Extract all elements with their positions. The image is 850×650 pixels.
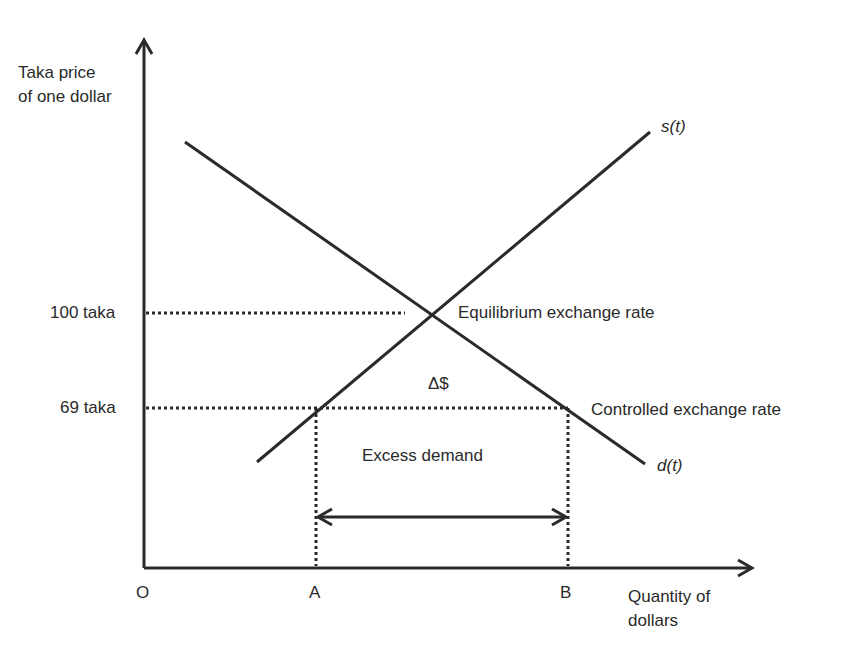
- x-axis-label-line2: dollars: [628, 610, 678, 631]
- supply-demand-diagram: [0, 0, 850, 650]
- controlled-rate-label: Controlled exchange rate: [591, 399, 781, 420]
- delta-dollar-label: Δ$: [428, 373, 449, 394]
- price-label-69: 69 taka: [60, 397, 116, 418]
- quantity-b-label: B: [560, 582, 571, 603]
- quantity-a-label: A: [309, 582, 320, 603]
- price-label-100: 100 taka: [50, 302, 115, 323]
- supply-curve-label: s(t): [661, 116, 686, 137]
- y-axis-label-line1: Taka price: [18, 62, 95, 83]
- excess-demand-label: Excess demand: [362, 445, 483, 466]
- demand-curve-label: d(t): [657, 455, 683, 476]
- y-axis-label-line2: of one dollar: [18, 86, 112, 107]
- equilibrium-rate-label: Equilibrium exchange rate: [458, 302, 655, 323]
- origin-label: O: [136, 582, 149, 603]
- x-axis-label-line1: Quantity of: [628, 586, 710, 607]
